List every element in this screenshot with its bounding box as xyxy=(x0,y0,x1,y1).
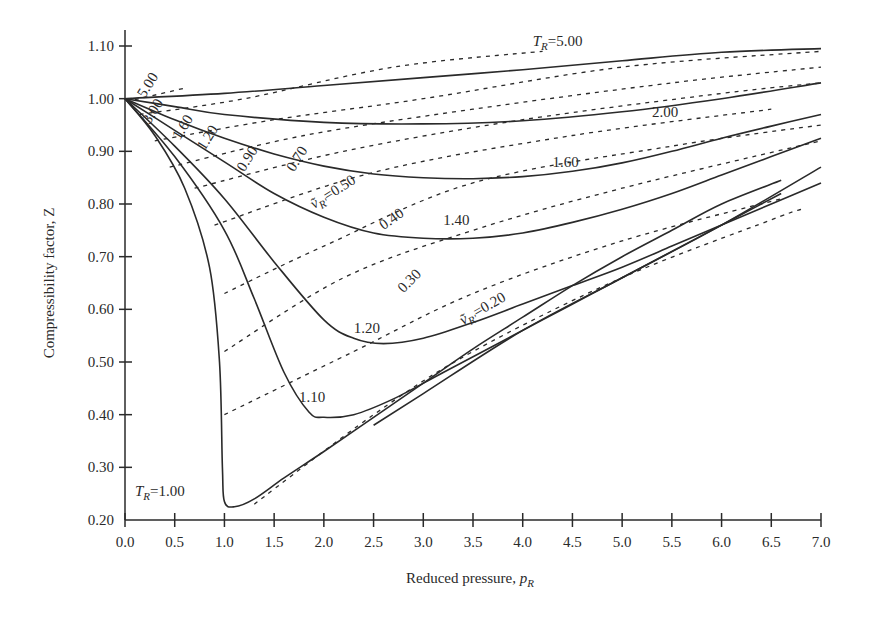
x-tick-label: 6.0 xyxy=(712,534,731,550)
y-tick-label: 0.50 xyxy=(88,354,114,370)
x-tick-label: 1.0 xyxy=(215,534,234,550)
isotherm-t-r-1-00-extension- xyxy=(374,167,821,425)
curve-label: 5.00 xyxy=(134,70,161,101)
curve-label: TR=5.00 xyxy=(533,33,583,52)
isotherm-t-r-2-00 xyxy=(125,83,821,124)
curve-label: 0.40 xyxy=(376,205,407,233)
x-tick-label: 5.0 xyxy=(613,534,632,550)
x-tick-label: 4.0 xyxy=(513,534,532,550)
curve-label: 2.00 xyxy=(652,104,678,120)
x-tick-label: 0.0 xyxy=(116,534,135,550)
curve-label: ṽR'=0.20 xyxy=(457,289,510,331)
x-axis-title: Reduced pressure, pR xyxy=(406,570,534,589)
isochore-v-r-0-40 xyxy=(224,141,821,352)
curve-label: 0.70 xyxy=(283,143,310,174)
y-tick-label: 1.10 xyxy=(88,38,114,54)
x-axis-ticks: 0.00.51.01.52.02.53.03.54.04.55.05.56.06… xyxy=(116,513,831,550)
isotherm-t-r-1-10 xyxy=(125,99,781,418)
y-tick-label: 1.00 xyxy=(88,91,114,107)
curve-label: ṽR'=0.50 xyxy=(307,171,360,214)
isotherm-t-r-1-60 xyxy=(125,99,821,179)
compressibility-chart: 0.00.51.01.52.02.53.03.54.04.55.05.56.06… xyxy=(0,0,875,622)
curve-label: 1.20 xyxy=(354,320,380,336)
curve-label: 1.40 xyxy=(443,212,469,228)
isotherm-t-r-1-00 xyxy=(125,99,781,507)
isochore-v-r-0-30 xyxy=(224,199,781,415)
isochore-v-r-0-20 xyxy=(254,209,801,504)
isochore-v-r-3-00 xyxy=(140,51,543,114)
x-tick-label: 7.0 xyxy=(812,534,831,550)
y-tick-label: 0.30 xyxy=(88,459,114,475)
axes xyxy=(125,30,821,520)
x-tick-label: 3.5 xyxy=(464,534,483,550)
isotherm-t-r-5-00 xyxy=(125,49,821,99)
y-tick-label: 0.40 xyxy=(88,407,114,423)
curve-label: 0.90 xyxy=(233,143,260,174)
y-axis-title: Compressibility factor, Z xyxy=(41,208,57,359)
y-tick-label: 0.70 xyxy=(88,249,114,265)
x-tick-label: 6.5 xyxy=(762,534,781,550)
curve-label: 1.10 xyxy=(299,389,325,405)
curve-label: 1.60 xyxy=(553,154,579,170)
y-tick-label: 0.60 xyxy=(88,301,114,317)
plot-curves xyxy=(125,49,821,508)
x-tick-label: 5.5 xyxy=(662,534,681,550)
x-tick-label: 1.5 xyxy=(265,534,284,550)
y-tick-label: 0.20 xyxy=(88,512,114,528)
x-tick-label: 3.0 xyxy=(414,534,433,550)
x-tick-label: 2.5 xyxy=(364,534,383,550)
y-tick-label: 0.90 xyxy=(88,143,114,159)
curve-label: 1.20 xyxy=(194,122,221,153)
y-tick-label: 0.80 xyxy=(88,196,114,212)
curve-labels: TR=5.002.001.601.401.201.10TR=1.00ṽR'=0.… xyxy=(134,33,678,502)
isotherm-t-r-1-40 xyxy=(125,99,821,239)
curve-label: 0.30 xyxy=(394,266,424,296)
x-tick-label: 0.5 xyxy=(165,534,184,550)
x-tick-label: 2.0 xyxy=(314,534,333,550)
curve-label: TR=1.00 xyxy=(135,483,185,502)
isochore-v-r-1-60 xyxy=(155,51,821,141)
x-tick-label: 4.5 xyxy=(563,534,582,550)
